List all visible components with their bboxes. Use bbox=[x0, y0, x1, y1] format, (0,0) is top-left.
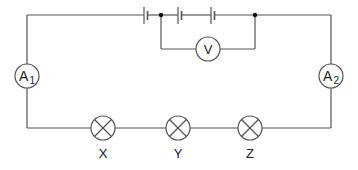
battery-cell-3 bbox=[211, 7, 215, 24]
ammeter-2-label: A bbox=[323, 68, 333, 84]
ammeter-2-subscript: 2 bbox=[334, 75, 340, 86]
circuit-diagram: A 1 A 2 V X Y Z bbox=[0, 0, 358, 170]
battery-cell-2 bbox=[178, 7, 182, 24]
voltmeter-label: V bbox=[204, 42, 213, 57]
battery-cell-1 bbox=[144, 7, 148, 24]
lamp-y bbox=[166, 116, 190, 140]
lamp-z-label: Z bbox=[246, 146, 254, 161]
ammeter-1-subscript: 1 bbox=[30, 75, 36, 86]
lamp-x-label: X bbox=[99, 146, 108, 161]
lamp-y-label: Y bbox=[174, 146, 183, 161]
lamp-z bbox=[238, 116, 262, 140]
ammeter-1-label: A bbox=[19, 68, 29, 84]
junction-right bbox=[253, 13, 257, 17]
junction-left bbox=[159, 13, 163, 17]
lamp-x bbox=[91, 116, 115, 140]
